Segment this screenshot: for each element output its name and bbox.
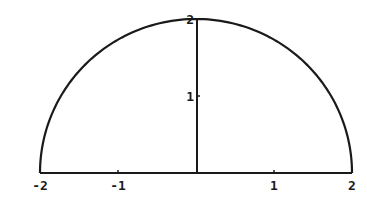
y-axis: 12	[186, 12, 200, 173]
semicircle-chart: -2-112 12	[0, 0, 367, 205]
x-tick-label: 1	[270, 178, 278, 193]
y-tick-label: 1	[186, 89, 194, 104]
x-tick-label: -2	[32, 178, 48, 193]
x-tick-label: 2	[348, 178, 356, 193]
x-tick-label: -1	[110, 178, 126, 193]
y-tick-label: 2	[186, 12, 194, 27]
x-axis: -2-112	[32, 170, 356, 193]
